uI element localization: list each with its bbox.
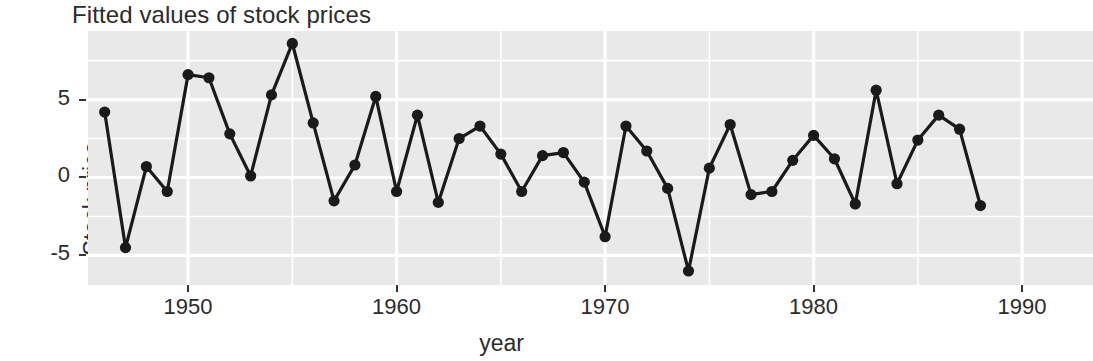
x-tick-mark (187, 285, 189, 292)
x-tick-label: 1980 (769, 294, 859, 320)
x-tick-mark (813, 285, 815, 292)
chart-figure: Fitted values of stock prices Stock pric… (0, 0, 1093, 361)
x-axis-title-text: year (479, 330, 524, 356)
x-tick-mark (1021, 285, 1023, 292)
x-axis-ticks: 19501960197019801990 (0, 0, 1093, 361)
x-tick-label: 1960 (352, 294, 442, 320)
x-tick-label: 1970 (560, 294, 650, 320)
x-tick-mark (396, 285, 398, 292)
x-tick-mark (604, 285, 606, 292)
x-axis-title: year (0, 330, 1093, 357)
x-tick-label: 1950 (143, 294, 233, 320)
x-tick-label: 1990 (977, 294, 1067, 320)
